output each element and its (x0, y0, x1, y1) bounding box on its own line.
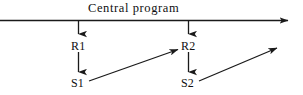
node-label-r2: R2 (181, 40, 195, 52)
node-label-r1: R1 (71, 40, 85, 52)
s2-to-next-arrow (199, 48, 277, 81)
s1-to-r2-arrow (89, 50, 178, 82)
central-program-diagram: Central program R1 R2 S1 S2 (0, 0, 303, 95)
diagram-title: Central program (88, 2, 179, 15)
node-label-s1: S1 (71, 77, 84, 89)
node-label-s2: S2 (181, 77, 194, 89)
